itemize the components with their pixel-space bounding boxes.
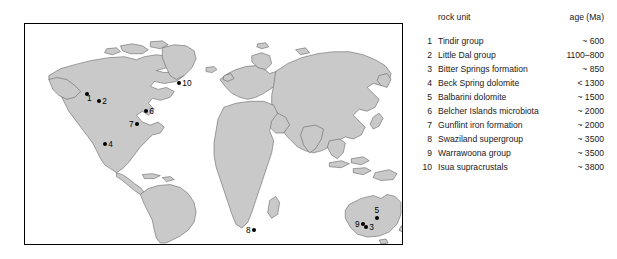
marker-label: 8 [246,226,251,234]
landmass-indonesia-1 [329,161,349,168]
row-number: 9 [420,148,432,158]
landmass-arctic-islands [120,44,148,54]
row-age: < 1300 [577,78,604,88]
world-map-svg [25,24,402,244]
row-number: 1 [420,36,432,46]
landmass-madagascar [268,196,280,218]
row-rock-unit: Isua supracrustals [438,162,508,172]
table-row: 7 Gunflint iron formation ~ 2000 [420,118,610,132]
table-row: 3 Bitter Springs formation ~ 850 [420,62,610,76]
landmass-southeast-asia [327,139,345,159]
table-row: 9 Warrawoona group ~ 3500 [420,146,610,160]
row-age: 1100–800 [566,50,604,60]
landmass-asia [272,52,391,153]
row-rock-unit: Beck Spring dolomite [438,78,519,88]
table-row: 2 Little Dal group 1100–800 [420,48,610,62]
row-number: 7 [420,120,432,130]
legend-rows: 1 Tindir group ~ 600 2 Little Dal group … [420,34,610,174]
row-rock-unit: Balbarini dolomite [438,92,506,102]
landmass-cuba-east [162,177,174,182]
table-row: 10 Isua supracrustals ~ 3800 [420,160,610,174]
landmass-central-america [117,173,145,195]
marker-label: 2 [102,97,107,105]
landmass-indonesia-2 [351,157,369,165]
table-row: 1 Tindir group ~ 600 [420,34,610,48]
row-number: 2 [420,50,432,60]
table-row: 8 Swaziland supergroup ~ 3500 [420,132,610,146]
landmass-iceland [206,67,217,73]
row-number: 5 [420,92,432,102]
marker-label: 3 [369,223,374,231]
landmass-svalbard [257,43,269,49]
row-age: ~ 2000 [577,120,604,130]
landmass-north-america [49,55,184,173]
landmass-caribbean [142,174,160,179]
table-row: 5 Balbarini dolomite ~ 1500 [420,90,610,104]
column-header-rock-unit: rock unit [438,12,470,22]
landmass-arctic-islands-2 [105,48,121,55]
row-age: ~ 600 [582,36,604,46]
landmass-new-guinea [373,170,397,181]
marker-label: 7 [129,120,134,128]
row-number: 10 [420,162,432,172]
row-number: 6 [420,106,432,116]
row-age: ~ 3500 [577,134,604,144]
row-rock-unit: Warrawoona group [438,148,511,158]
landmass-japan [370,113,383,129]
row-rock-unit: Gunflint iron formation [438,120,523,130]
marker-label: 10 [182,79,191,87]
marker-label: 9 [355,220,360,228]
figure-root: 1 2 3 4 5 6 7 8 [0,0,617,259]
world-map-panel: 1 2 3 4 5 6 7 8 [24,23,403,245]
row-age: ~ 3800 [577,162,604,172]
row-age: ~ 1500 [577,92,604,102]
landmass-novaya-zemlya [296,48,310,55]
row-age: ~ 850 [582,64,604,74]
landmass-indonesia-3 [353,168,371,175]
rock-unit-legend-table: rock unit age (Ma) 1 Tindir group ~ 600 … [420,8,610,174]
row-rock-unit: Belcher Islands microbiota [438,106,539,116]
table-row: 4 Beck Spring dolomite < 1300 [420,76,610,90]
row-rock-unit: Bitter Springs formation [438,64,528,74]
landmass-south-america [140,185,196,243]
row-number: 8 [420,134,432,144]
marker-label: 4 [108,140,113,148]
legend-header-row: rock unit age (Ma) [420,8,610,30]
marker-label: 1 [87,94,92,102]
row-age: ~ 3500 [577,148,604,158]
table-row: 6 Belcher Islands microbiota ~ 2000 [420,104,610,118]
row-rock-unit: Tindir group [438,36,484,46]
marker-label: 6 [149,107,154,115]
row-number: 3 [420,64,432,74]
marker-label: 5 [374,206,379,214]
row-rock-unit: Little Dal group [438,50,496,60]
row-age: ~ 2000 [577,106,604,116]
column-header-age: age (Ma) [570,12,604,22]
row-rock-unit: Swaziland supergroup [438,134,523,144]
row-number: 4 [420,78,432,88]
landmass-new-zealand-south [399,223,402,233]
landmass-tasmania [379,239,388,244]
